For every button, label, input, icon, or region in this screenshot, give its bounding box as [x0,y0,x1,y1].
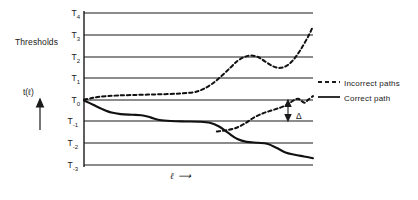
threshold-gridlines [84,13,313,165]
figure-container: Thresholds t(ℓ) ℓ ⟶ T4 T3 T2 T1 T0 T-1 T… [0,0,418,200]
y-axis-arrow-icon [37,99,44,130]
legend-swatches [318,82,340,97]
series-path-incorrect-paths-0 [84,26,313,99]
data-series-layer [84,26,313,158]
delta-arrow-icon [285,100,291,121]
series-path-incorrect-paths-1 [217,96,313,131]
series-path-correct-path-2 [84,100,313,158]
plot-svg [0,0,418,200]
